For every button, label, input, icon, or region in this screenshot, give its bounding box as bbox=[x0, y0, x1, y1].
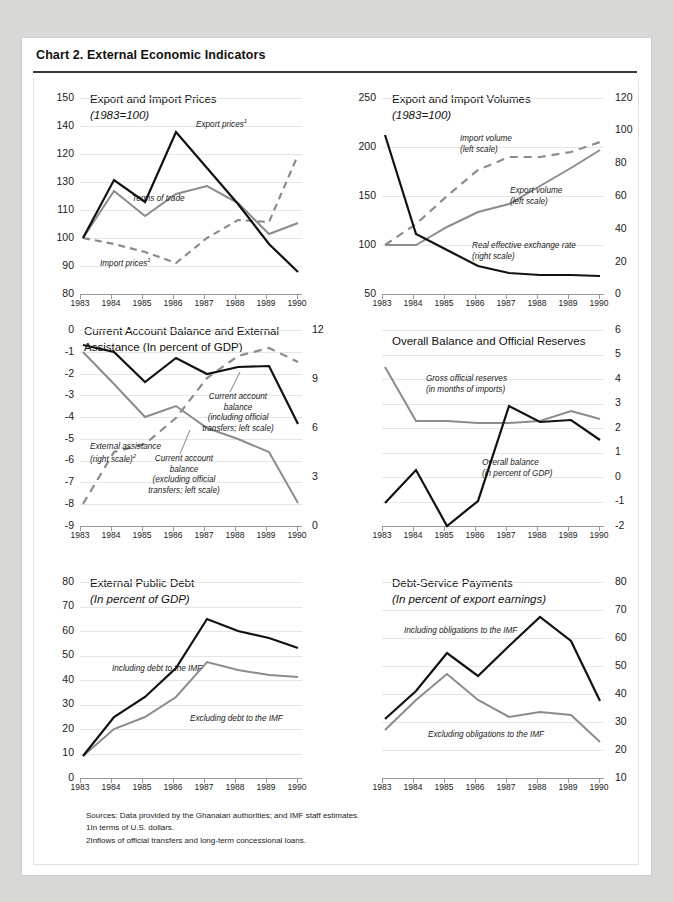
panel-export-import-volumes: Export and Import Volumes (1983=100) bbox=[330, 86, 648, 306]
panel-2-ytick-right-1: 100 bbox=[615, 124, 653, 135]
panel-1-ytick-0: 150 bbox=[36, 92, 74, 103]
series-import-volume bbox=[385, 142, 600, 245]
panel-4-ytick-right-1: 5 bbox=[615, 348, 645, 359]
panel-5-xtick-0: 1983 bbox=[65, 783, 95, 792]
panel-1-ytick-4: 110 bbox=[36, 204, 74, 215]
panel-5-ytick-8: 0 bbox=[36, 772, 74, 783]
panel-2-ytick-left-3: 100 bbox=[338, 239, 376, 250]
panel-debt-service-payments: Debt-Service Payments (In percent of exp… bbox=[330, 572, 648, 797]
panel-3-ytick-left-2: -2 bbox=[36, 368, 74, 379]
panel-6-ytick-right-6: 20 bbox=[615, 744, 645, 755]
panel-6-ytick-right-2: 60 bbox=[615, 632, 645, 643]
panel-6-ytick-right-1: 70 bbox=[615, 604, 645, 615]
panel-3-xtick-3: 1986 bbox=[158, 531, 188, 540]
series-including-debt-imf bbox=[83, 619, 298, 756]
panel-3-xtick-5: 1988 bbox=[220, 531, 250, 540]
panel-6-lines bbox=[382, 582, 604, 778]
panel-2-ytick-left-4: 50 bbox=[338, 288, 376, 299]
panel-3-ytick-left-3: -3 bbox=[36, 389, 74, 400]
panel-2-plot: Import volume (left scale) Export volume… bbox=[382, 98, 604, 294]
panel-4-ytick-right-8: -2 bbox=[615, 520, 645, 531]
series-export-volume bbox=[385, 150, 600, 245]
panel-4-ytick-right-3: 3 bbox=[615, 397, 645, 408]
panel-1-xtick-7: 1990 bbox=[282, 299, 312, 308]
panel-4-ytick-right-5: 1 bbox=[615, 446, 645, 457]
annotation-real-effective-exchange-rate: Real effective exchange rate (right scal… bbox=[472, 241, 576, 262]
panel-2-xtick-5: 1988 bbox=[522, 299, 552, 308]
panel-5-ytick-1: 70 bbox=[36, 600, 74, 611]
panel-4-ytick-right-0: 6 bbox=[615, 324, 645, 335]
panel-5-ytick-2: 60 bbox=[36, 625, 74, 636]
panel-2-xtick-0: 1983 bbox=[367, 299, 397, 308]
panel-4-xtick-7: 1990 bbox=[584, 531, 614, 540]
panel-2-xtick-4: 1987 bbox=[491, 299, 521, 308]
annotation-excluding-debt-imf: Excluding debt to the IMF bbox=[190, 714, 283, 725]
panel-1-plot: Export prices1 Terms of trade Import pri… bbox=[80, 98, 302, 294]
panel-2-ytick-right-4: 40 bbox=[615, 223, 653, 234]
panel-export-import-prices: Export and Import Prices (1983=100) bbox=[22, 86, 332, 306]
annotation-terms-of-trade: Terms of trade bbox=[132, 194, 184, 205]
panel-4-xtick-4: 1987 bbox=[491, 531, 521, 540]
panel-4-xtick-3: 1986 bbox=[460, 531, 490, 540]
annotation-excluding-obligations-imf: Excluding obligations to the IMF bbox=[428, 730, 544, 741]
panel-6-ytick-right-5: 30 bbox=[615, 716, 645, 727]
panel-2-xtick-7: 1990 bbox=[584, 299, 614, 308]
panel-3-plot: Current account balance (including offic… bbox=[80, 330, 302, 526]
panel-6-xtick-7: 1990 bbox=[584, 783, 614, 792]
annotation-export-prices: Export prices1 bbox=[196, 118, 247, 130]
panel-2-xtick-1: 1984 bbox=[398, 299, 428, 308]
panel-1-ytick-6: 90 bbox=[36, 260, 74, 271]
panel-6-ytick-right-0: 80 bbox=[615, 576, 645, 587]
panel-5-xtick-2: 1985 bbox=[127, 783, 157, 792]
panel-2-ytick-right-6: 0 bbox=[615, 288, 653, 299]
panel-5-ytick-3: 50 bbox=[36, 649, 74, 660]
panel-5-ytick-5: 30 bbox=[36, 698, 74, 709]
panel-3-ytick-left-4: -4 bbox=[36, 411, 74, 422]
series-excluding-debt-imf bbox=[83, 662, 298, 756]
panel-5-xtick-4: 1987 bbox=[189, 783, 219, 792]
panel-6-xtick-5: 1988 bbox=[522, 783, 552, 792]
title-divider bbox=[33, 71, 637, 73]
panel-2-ytick-right-0: 120 bbox=[615, 92, 653, 103]
panel-2-ytick-right-2: 80 bbox=[615, 157, 653, 168]
panel-2-ytick-left-1: 200 bbox=[338, 141, 376, 152]
panel-1-ytick-2: 120 bbox=[36, 148, 74, 159]
panel-5-ytick-4: 40 bbox=[36, 674, 74, 685]
panel-2-ytick-right-3: 60 bbox=[615, 190, 653, 201]
panel-3-xtick-4: 1987 bbox=[189, 531, 219, 540]
panel-6-xtick-4: 1987 bbox=[491, 783, 521, 792]
panel-overall-balance-reserves: Overall Balance and Official Reserves bbox=[330, 320, 648, 545]
panel-4-ytick-right-6: 0 bbox=[615, 471, 645, 482]
panel-5-xtick-5: 1988 bbox=[220, 783, 250, 792]
panel-6-xtick-1: 1984 bbox=[398, 783, 428, 792]
footnotes: Sources: Data provided by the Ghanaian a… bbox=[86, 810, 586, 847]
panel-6-ytick-right-7: 10 bbox=[615, 772, 645, 783]
panel-3-xtick-7: 1990 bbox=[282, 531, 312, 540]
panel-6-xtick-2: 1985 bbox=[429, 783, 459, 792]
panel-5-xtick-1: 1984 bbox=[96, 783, 126, 792]
panel-6-xtick-3: 1986 bbox=[460, 783, 490, 792]
panel-3-xtick-0: 1983 bbox=[65, 531, 95, 540]
footnote-1: 1In terms of U.S. dollars. bbox=[86, 822, 586, 834]
panel-3-ytick-left-1: -1 bbox=[36, 346, 74, 357]
panel-4-lines bbox=[382, 330, 604, 526]
panel-4-plot: Gross official reserves (in months of im… bbox=[382, 330, 604, 526]
panel-external-public-debt: External Public Debt (In percent of GDP) bbox=[22, 572, 332, 797]
panel-3-ytick-left-6: -6 bbox=[36, 454, 74, 465]
panel-3-ytick-left-7: -7 bbox=[36, 476, 74, 487]
panel-5-ytick-7: 10 bbox=[36, 747, 74, 758]
panel-1-xtick-3: 1986 bbox=[158, 299, 188, 308]
panel-2-xtick-3: 1986 bbox=[460, 299, 490, 308]
panel-5-ytick-0: 80 bbox=[36, 576, 74, 587]
panel-1-xtick-5: 1988 bbox=[220, 299, 250, 308]
panel-1-xtick-2: 1985 bbox=[127, 299, 157, 308]
panel-4-ytick-right-7: -1 bbox=[615, 495, 645, 506]
panel-2-ytick-left-2: 150 bbox=[338, 190, 376, 201]
panel-4-xtick-0: 1983 bbox=[367, 531, 397, 540]
panel-1-ytick-5: 100 bbox=[36, 232, 74, 243]
panel-5-ytick-6: 20 bbox=[36, 723, 74, 734]
panel-3-xtick-6: 1989 bbox=[251, 531, 281, 540]
panel-2-ytick-left-0: 250 bbox=[338, 92, 376, 103]
panel-4-xtick-6: 1989 bbox=[553, 531, 583, 540]
panel-1-xtick-6: 1989 bbox=[251, 299, 281, 308]
